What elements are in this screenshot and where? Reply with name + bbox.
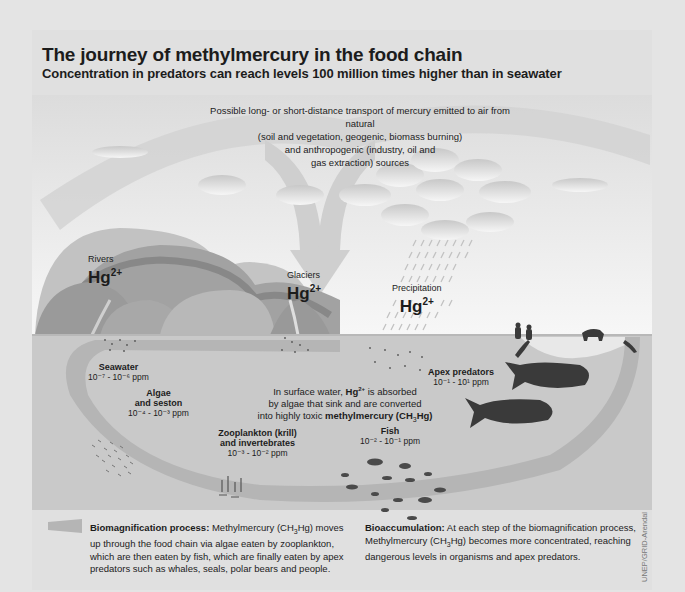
source-glaciers: Glaciers Hg2+	[287, 270, 321, 302]
legend-biomagnification: Biomagnification process: Methylmercury …	[90, 522, 345, 576]
transport-note: Possible long- or short-distance transpo…	[200, 104, 520, 169]
label-fish: Fish 10⁻² - 10⁻¹ ppm	[360, 426, 420, 446]
surface-water-note: In surface water, Hg2+ is absorbed by al…	[230, 383, 460, 426]
source-rivers: Rivers Hg2+	[88, 254, 122, 286]
page-title: The journey of methylmercury in the food…	[42, 44, 462, 66]
page-subtitle: Concentration in predators can reach lev…	[42, 66, 562, 81]
food-chain-illustration	[0, 0, 685, 592]
credit: UNEP/GRID-Arendal	[640, 512, 649, 582]
source-precipitation: Precipitation Hg2+	[392, 283, 442, 315]
label-algae: Algae and seston 10⁻⁴ - 10⁻³ ppm	[128, 388, 189, 418]
label-zooplankton: Zooplankton (krill) and invertebrates 10…	[200, 428, 315, 458]
legend-bioaccumulation: Bioaccumulation: At each step of the bio…	[365, 522, 650, 563]
biomagnification-legend-swatch	[48, 519, 82, 533]
label-seawater: Seawater 10⁻⁷ - 10⁻⁶ ppm	[88, 362, 149, 382]
